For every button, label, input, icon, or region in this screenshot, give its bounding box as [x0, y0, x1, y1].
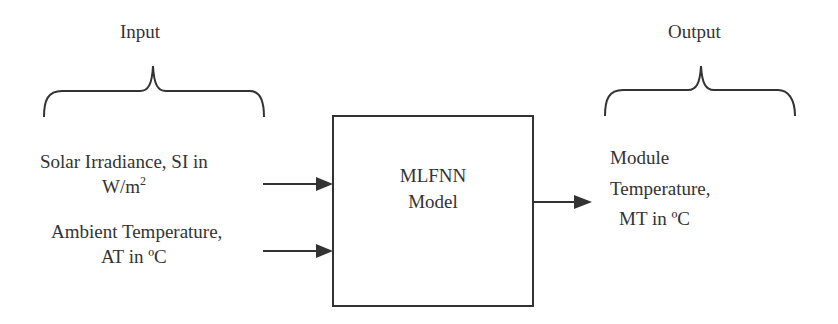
- input-ambient-temperature-line2: AT in ºC: [101, 246, 167, 268]
- arrow-ambient-temperature: [263, 244, 333, 258]
- input-solar-irradiance-line1: Solar Irradiance, SI in: [40, 151, 208, 173]
- input-solar-irradiance-line2: W/m2: [102, 176, 146, 198]
- arrow-module-temperature: [533, 195, 592, 209]
- output-module-temperature-line2: Temperature,: [610, 178, 710, 200]
- input-ambient-temperature-line1: Ambient Temperature,: [51, 221, 222, 243]
- arrow-solar-irradiance: [263, 177, 333, 191]
- output-heading: Output: [668, 21, 721, 43]
- output-module-temperature-line1: Module: [610, 147, 669, 169]
- input-heading: Input: [120, 21, 160, 43]
- model-label-line2: Model: [333, 191, 533, 213]
- output-module-temperature-line3: MT in ºC: [619, 208, 690, 230]
- model-label-line1: MLFNN: [333, 165, 533, 187]
- input-brace: [44, 66, 264, 117]
- unit-base: W/m: [102, 176, 140, 197]
- unit-exponent: 2: [140, 174, 146, 188]
- output-brace: [605, 66, 795, 116]
